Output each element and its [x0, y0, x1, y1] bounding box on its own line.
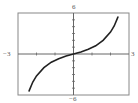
- x-min-label: −3: [3, 51, 10, 58]
- graph-plot: [0, 0, 138, 103]
- y-min-label: −6: [69, 96, 76, 103]
- x-max-label: 3: [131, 51, 135, 58]
- y-max-label: 6: [72, 4, 76, 11]
